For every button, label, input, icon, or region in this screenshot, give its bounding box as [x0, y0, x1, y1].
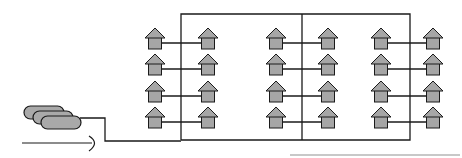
house-icon — [318, 107, 338, 128]
house-icon — [145, 107, 165, 128]
house-icon — [423, 54, 443, 75]
house-icon — [318, 28, 338, 49]
house-icon — [266, 81, 286, 102]
network-diagram — [0, 0, 462, 158]
house-icon — [198, 81, 218, 102]
house-icon — [371, 28, 391, 49]
house-icon — [371, 81, 391, 102]
storage-tank-3 — [41, 116, 81, 129]
house-icon — [266, 107, 286, 128]
house-icon — [318, 54, 338, 75]
house-icon — [145, 54, 165, 75]
house-icon — [198, 28, 218, 49]
house-icon — [423, 28, 443, 49]
house-icon — [198, 54, 218, 75]
house-icon — [423, 81, 443, 102]
house-icon — [371, 54, 391, 75]
house-icon — [198, 107, 218, 128]
house-icon — [266, 28, 286, 49]
house-icon — [423, 107, 443, 128]
house-icon — [266, 54, 286, 75]
house-icon — [371, 107, 391, 128]
house-icon — [145, 81, 165, 102]
house-icon — [318, 81, 338, 102]
house-icon — [145, 28, 165, 49]
